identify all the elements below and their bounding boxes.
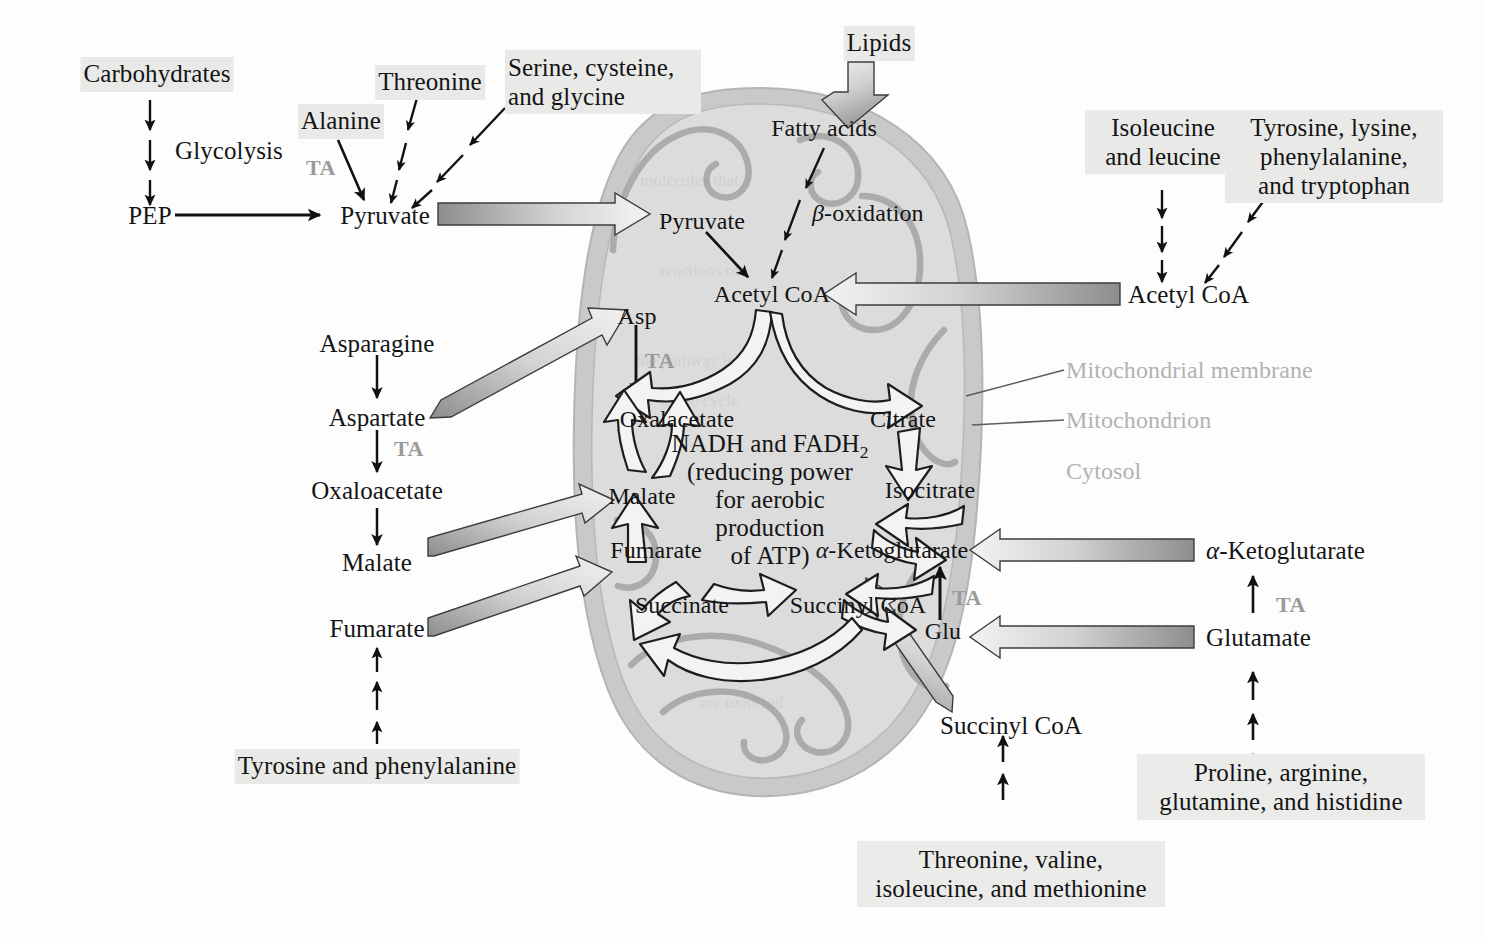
svg-text:reactions of: reactions of bbox=[660, 261, 740, 280]
label-acetyl-coa-mito: Acetyl CoA bbox=[714, 281, 830, 308]
note-line-2: (reducing power bbox=[687, 458, 853, 485]
tyr-line-3: and tryptophan bbox=[1258, 172, 1410, 199]
serine-to-pyruvate-arrows bbox=[412, 108, 505, 208]
label-acetyl-coa-cytosol: Acetyl CoA bbox=[1128, 281, 1249, 310]
diagram-canvas: molecules that reactions of the pathway … bbox=[0, 0, 1485, 939]
label-beta-oxidation: β-oxidation bbox=[812, 200, 924, 227]
label-mitochondrial-membrane: Mitochondrial membrane bbox=[1066, 357, 1313, 384]
label-lipids: Lipids bbox=[847, 29, 912, 58]
label-alpha-ketoglutarate-cytosol: α-Ketoglutarate bbox=[1206, 537, 1365, 566]
label-glu: Glu bbox=[925, 618, 961, 645]
label-glutamate-cytosol: Glutamate bbox=[1206, 624, 1311, 653]
glutamate-transport-arrow bbox=[970, 616, 1194, 658]
label-ta-asp: TA bbox=[645, 348, 675, 374]
label-ta-aspartate: TA bbox=[394, 436, 424, 462]
label-ta-glu: TA bbox=[952, 585, 982, 611]
label-malate-cytosol: Malate bbox=[342, 549, 412, 578]
label-ta-alanine: TA bbox=[306, 155, 336, 181]
label-succinyl-coa-mito: Succinyl CoA bbox=[790, 592, 927, 619]
thr-val-line-2: isoleucine, and methionine bbox=[875, 875, 1146, 902]
pyruvate-transport-arrow bbox=[438, 193, 650, 235]
label-cytosol: Cytosol bbox=[1066, 458, 1141, 485]
label-aspartate: Aspartate bbox=[329, 404, 426, 433]
threonine-to-pyruvate-arrows bbox=[391, 98, 417, 203]
label-ta-glutamate: TA bbox=[1276, 592, 1306, 618]
alpha-ketoglutarate-transport-arrow bbox=[970, 529, 1194, 571]
note-line-5: of ATP) bbox=[730, 542, 809, 569]
pro-arg-line-1: Proline, arginine, bbox=[1194, 759, 1368, 786]
label-asp: Asp bbox=[618, 303, 657, 330]
label-pep: PEP bbox=[128, 202, 171, 231]
serine-line-1: Serine, cysteine, bbox=[508, 54, 674, 81]
tyr-lys-phe-trp-arrows bbox=[1205, 195, 1268, 283]
note-subscript: 2 bbox=[860, 442, 869, 462]
label-serine-cysteine-glycine: Serine, cysteine, and glycine bbox=[508, 53, 698, 111]
note-line-3: for aerobic bbox=[715, 486, 825, 513]
label-mitochondrion: Mitochondrion bbox=[1066, 407, 1211, 434]
label-tyr-lys-phe-trp: Tyrosine, lysine, phenylalanine, and try… bbox=[1228, 113, 1440, 200]
label-fumarate-cytosol: Fumarate bbox=[329, 615, 424, 644]
isoleucine-line-1: Isoleucine bbox=[1111, 114, 1215, 141]
label-proline-arginine-glutamine-histidine: Proline, arginine, glutamine, and histid… bbox=[1141, 758, 1421, 816]
label-pyruvate-cytosol: Pyruvate bbox=[340, 202, 430, 231]
svg-text:molecules that: molecules that bbox=[640, 171, 739, 190]
label-pyruvate-mito: Pyruvate bbox=[659, 208, 745, 235]
note-line-1: NADH and FADH bbox=[671, 430, 859, 457]
label-threonine: Threonine bbox=[378, 68, 482, 97]
label-tyrosine-phenylalanine: Tyrosine and phenylalanine bbox=[238, 752, 517, 781]
serine-line-2: and glycine bbox=[508, 83, 625, 110]
label-asparagine: Asparagine bbox=[320, 330, 435, 359]
label-succinyl-coa-cytosol: Succinyl CoA bbox=[940, 712, 1082, 741]
note-line-4: production bbox=[715, 514, 824, 541]
label-fatty-acids: Fatty acids bbox=[771, 115, 877, 142]
thr-val-line-1: Threonine, valine, bbox=[919, 846, 1103, 873]
isoleucine-line-2: and leucine bbox=[1105, 143, 1221, 170]
label-carbohydrates: Carbohydrates bbox=[83, 60, 230, 89]
label-oxaloacetate-cytosol: Oxaloacetate bbox=[311, 477, 443, 506]
label-nadh-fadh2-note: NADH and FADH2 (reducing power for aerob… bbox=[640, 430, 900, 570]
label-alanine: Alanine bbox=[301, 107, 381, 136]
label-isoleucine-leucine: Isoleucine and leucine bbox=[1088, 113, 1238, 171]
fumarate-transport-arrow bbox=[428, 556, 612, 636]
label-glycolysis: Glycolysis bbox=[175, 137, 283, 166]
tyr-line-1: Tyrosine, lysine, bbox=[1250, 114, 1417, 141]
label-threonine-valine-isoleucine-methionine: Threonine, valine, isoleucine, and methi… bbox=[861, 845, 1161, 903]
pro-arg-line-2: glutamine, and histidine bbox=[1159, 788, 1402, 815]
label-succinate: Succinate bbox=[635, 592, 729, 619]
alanine-to-pyruvate-arrow bbox=[338, 140, 364, 200]
svg-text:are oxidized: are oxidized bbox=[700, 693, 784, 712]
tyr-line-2: phenylalanine, bbox=[1260, 143, 1408, 170]
